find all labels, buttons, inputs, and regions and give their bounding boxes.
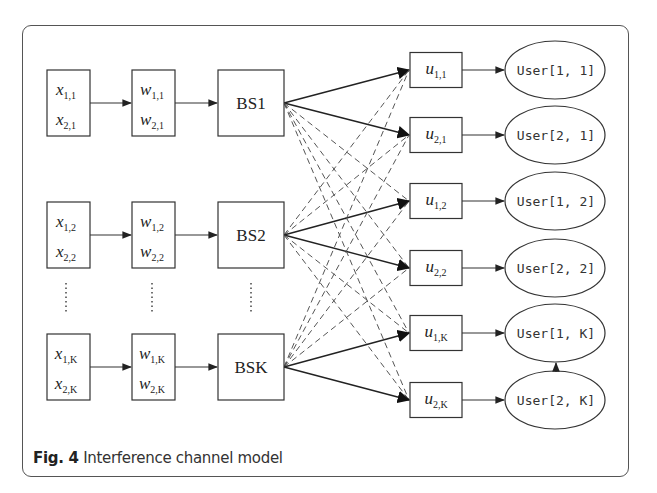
interference-link xyxy=(284,135,409,367)
interference-link xyxy=(284,103,409,268)
caption-text: Interference channel model xyxy=(79,449,283,467)
direct-link xyxy=(284,103,409,135)
user-label: User[1, 1] xyxy=(517,63,595,78)
interference-link xyxy=(284,70,409,367)
transmitter-row-1: x1,1x2,1w1,1w2,1BS1 xyxy=(47,70,284,136)
base-station-label: BSK xyxy=(234,358,268,377)
receiver-2: u2,1User[2, 1] xyxy=(410,106,605,164)
user-label: User[2, 1] xyxy=(517,128,595,143)
interference-link xyxy=(284,135,409,235)
interference-link xyxy=(284,235,409,400)
interference-link xyxy=(284,201,409,367)
transmitter-row-2: x1,2x2,2w1,2w2,2BS2 xyxy=(47,202,284,268)
figure-caption: Fig. 4 Interference channel model xyxy=(33,449,283,467)
user-label: User[2, K] xyxy=(517,393,595,408)
caption-prefix: Fig. 4 xyxy=(33,449,79,467)
channel-links xyxy=(284,70,409,400)
receiver-1: u1,1User[1, 1] xyxy=(410,41,605,99)
receiver-4: u2,2User[2, 2] xyxy=(410,239,605,297)
direct-link xyxy=(284,333,409,367)
user-label: User[1, K] xyxy=(517,326,595,341)
receiver-6: u2,KUser[2, K] xyxy=(410,371,605,429)
transmitter-row-3: x1,Kx2,Kw1,Kw2,KBSK xyxy=(47,334,284,400)
interference-channel-diagram: x1,1x2,1w1,1w2,1BS1x1,2x2,2w1,2w2,2BS2x1… xyxy=(0,0,657,493)
user-label: User[2, 2] xyxy=(517,261,595,276)
direct-link xyxy=(284,367,409,400)
receiver-3: u1,2User[1, 2] xyxy=(410,172,605,230)
blocks: x1,1x2,1w1,1w2,1BS1x1,2x2,2w1,2w2,2BS2x1… xyxy=(47,41,605,429)
receiver-5: u1,KUser[1, K] xyxy=(410,304,605,362)
interference-link xyxy=(284,70,409,235)
base-station-label: BS2 xyxy=(236,226,265,245)
direct-link xyxy=(284,70,409,103)
user-label: User[1, 2] xyxy=(517,194,595,209)
base-station-label: BS1 xyxy=(236,94,265,113)
